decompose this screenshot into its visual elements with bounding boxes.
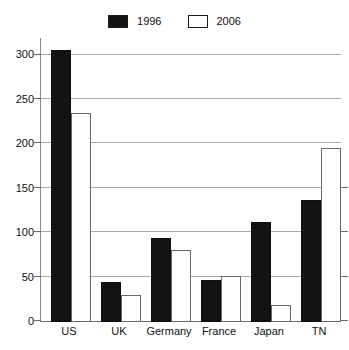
y-tick-mark — [34, 187, 41, 188]
y-tick-mark — [34, 142, 41, 143]
bar-uk-2006[interactable] — [121, 295, 141, 322]
x-tick-label-uk: UK — [94, 325, 144, 337]
y-tick-label: 100 — [0, 227, 34, 238]
legend-swatch-2006 — [188, 15, 208, 28]
legend-label-1996: 1996 — [137, 16, 161, 27]
bar-japan-1996[interactable] — [251, 222, 271, 322]
y-tick-mark — [34, 231, 41, 232]
y-tick-label: 200 — [0, 138, 34, 149]
legend-item-2006: 2006 — [188, 15, 241, 28]
bars-layer — [41, 38, 341, 322]
bar-japan-2006[interactable] — [271, 305, 291, 322]
y-tick-label: 0 — [0, 316, 34, 327]
y-tick-label: 250 — [0, 94, 34, 105]
y-tick-mark — [34, 276, 41, 277]
y-tick-label: 50 — [0, 272, 34, 283]
x-tick-label-japan: Japan — [244, 325, 294, 337]
bar-group-uk — [95, 38, 145, 322]
bar-group-tn — [295, 38, 345, 322]
x-axis-labels: US UK Germany France Japan TN — [40, 325, 340, 341]
legend-item-1996: 1996 — [108, 15, 161, 28]
y-tick-mark — [34, 320, 41, 321]
bar-group-germany — [145, 38, 195, 322]
legend-swatch-1996 — [108, 15, 128, 28]
y-tick-label: 300 — [0, 49, 34, 60]
y-tick-label: 150 — [0, 183, 34, 194]
bar-tn-1996[interactable] — [301, 200, 321, 322]
chart-legend: 1996 2006 — [0, 10, 349, 32]
bar-france-1996[interactable] — [201, 280, 221, 322]
bar-group-france — [195, 38, 245, 322]
bar-group-us — [45, 38, 95, 322]
legend-label-2006: 2006 — [217, 16, 241, 27]
x-tick-label-germany: Germany — [144, 325, 194, 337]
bar-us-1996[interactable] — [51, 50, 71, 322]
y-axis-labels: 0 50 100 150 200 250 300 — [0, 38, 34, 322]
bar-tn-2006[interactable] — [321, 148, 341, 322]
y-tick-mark — [34, 98, 41, 99]
x-tick-label-france: France — [194, 325, 244, 337]
bar-chart: 1996 2006 0 50 100 150 200 250 300 — [0, 0, 349, 350]
plot-area — [40, 38, 340, 322]
y-tick-mark — [34, 54, 41, 55]
bar-france-2006[interactable] — [221, 276, 241, 322]
x-tick-label-tn: TN — [294, 325, 344, 337]
bar-germany-1996[interactable] — [151, 238, 171, 322]
bar-group-japan — [245, 38, 295, 322]
bar-germany-2006[interactable] — [171, 250, 191, 322]
x-tick-label-us: US — [44, 325, 94, 337]
bar-uk-1996[interactable] — [101, 282, 121, 322]
bar-us-2006[interactable] — [71, 113, 91, 322]
